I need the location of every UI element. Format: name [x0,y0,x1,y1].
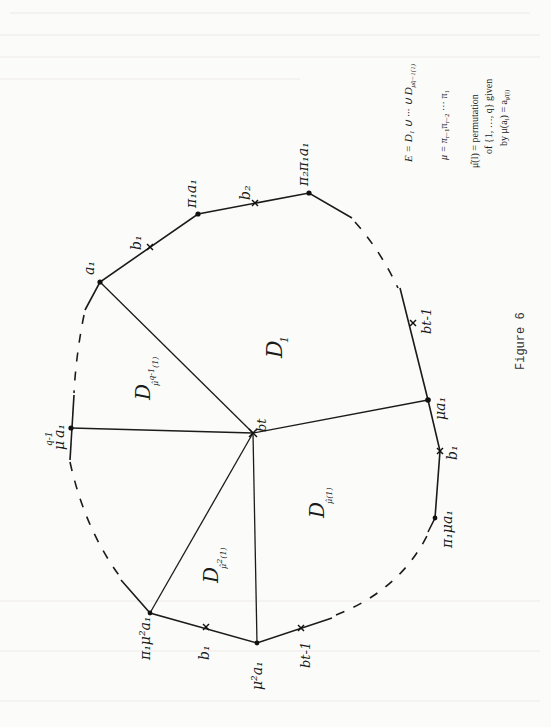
label-b1-top: b₁ [128,235,144,250]
spoke-to-mu-q1-a1 [71,428,253,433]
formula-E-union: E = D₁ ∪ ··· ∪ Dμ̂q−1(1) [402,63,417,163]
cross-bt1-right-icon [410,320,416,326]
dash-bottom-right [336,534,428,615]
label-pi2-pi1-a1: π₂π₁a₁ [295,142,311,187]
label-mu2-a1: μ²a₁ [249,661,265,690]
region-D-mu2: D μ̂2(1) [199,547,228,584]
perm-line-2: of {1, …, q} given [483,79,494,154]
label-a1: a₁ [81,261,97,275]
vertex-a1 [97,279,102,284]
svg-text:μ̂(1): μ̂(1) [325,487,334,504]
dash-left [70,462,121,578]
figure-caption: Figure 6 [514,312,528,370]
svg-text:E = D₁ ∪ ··· ∪ Dμ̂q−1(1): E = D₁ ∪ ··· ∪ Dμ̂q−1(1) [402,63,417,163]
svg-text:μ = πr−1πr−2 ··· π₁: μ = πr−1πr−2 ··· π₁ [438,90,451,161]
label-pi1-a1: π₁a₁ [183,179,199,209]
label-bt: bt [254,418,269,432]
formula-mu-definition: μ = πr−1πr−2 ··· π₁ [438,90,451,161]
svg-text:a₁: a₁ [51,424,67,438]
spoke-to-a1 [100,282,253,433]
spokes [71,282,428,643]
label-bt1-bottom: bt-1 [298,642,313,668]
region-D-mu: D μ̂(1) [305,487,334,519]
label-b2-top: b₂ [237,185,253,200]
figure-6-diagram: bt a₁ π₁a₁ π₂π₁a₁ μa₁ π₁μa₁ μ²a₁ π₁μ²a₁ … [0,0,551,727]
boundary-dashed [70,222,428,615]
region-D1: D 1 [262,336,291,359]
label-b1-right: b₁ [444,445,460,460]
vertex-pi1-mu2-a1 [148,611,153,616]
dash-top-right [355,222,398,288]
cross-labels: b₁ b₂ bt-1 b₁ b₁ bt-1 [128,185,460,668]
label-pi1-mu-a1: π₁μa₁ [439,510,455,549]
vertex-pi2-pi1-a1 [306,190,311,195]
vertex-pi1-a1 [195,211,200,216]
vertex-mu-a1 [425,397,431,403]
spoke-to-mu2-a1 [253,433,257,643]
svg-text:μ̂2(1): μ̂2(1) [215,547,228,569]
label-bt1-right: bt-1 [419,308,434,334]
formula-permutation: μ̂(l) = permutation of {1, …, q} given b… [469,79,511,168]
label-mu-q1-a1: μ q-1 a₁ [44,424,67,450]
dash-top-left [74,315,84,393]
cross-marks [147,200,443,631]
boundary-solid [70,193,440,643]
formulas: E = D₁ ∪ ··· ∪ Dμ̂q−1(1) μ = πr−1πr−2 ··… [402,63,511,168]
region-D-mu-q1: D μ̂q-1(1) [131,357,160,401]
label-pi1-mu2-a1: π₁μ²a₁ [137,617,153,661]
cross-b1-top-icon [147,244,153,250]
perm-line-3: by μ(al) = aμ̂(l) [498,89,511,146]
boundary-top-chain [85,193,352,310]
region-labels: D 1 D μ̂q-1(1) D μ̂2(1) D μ̂(1) [131,336,334,584]
vertex-mu2-a1 [255,641,260,646]
spoke-to-pi1-mu2-a1 [150,433,253,613]
spoke-to-mu-a1 [253,400,428,433]
svg-text:1: 1 [278,336,291,343]
vertex-mu-q1-a1 [68,425,73,430]
vertex-pi1-mu-a1 [433,516,438,521]
perm-line-1: μ̂(l) = permutation [469,94,481,168]
svg-text:μ̂q-1(1): μ̂q-1(1) [147,357,160,386]
label-mu-a1: μa₁ [432,397,448,420]
vertex-labels: bt a₁ π₁a₁ π₂π₁a₁ μa₁ π₁μa₁ μ²a₁ π₁μ²a₁ … [44,142,455,690]
label-b1-bottom: b₁ [196,645,212,660]
